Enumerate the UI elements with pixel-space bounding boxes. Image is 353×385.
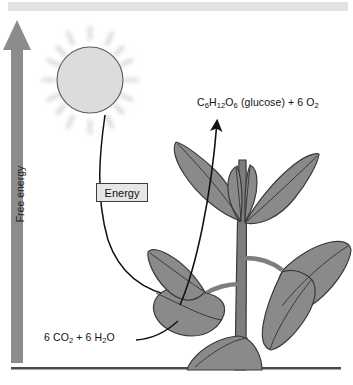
sun-icon — [57, 47, 123, 113]
free-energy-axis-label: Free energy — [14, 154, 26, 234]
reactants-label: 6 CO2 + 6 H2O — [44, 331, 115, 345]
photosynthesis-diagram: C6H12O6 (glucose) + 6 O2 6 CO2 + 6 H2O E… — [0, 0, 353, 385]
leaf-right-lower — [262, 270, 315, 350]
leaf-bottom-center — [187, 336, 262, 370]
energy-label-box: Energy — [96, 183, 148, 202]
glucose-products-label: C6H12O6 (glucose) + 6 O2 — [197, 96, 319, 110]
baseline-ground — [11, 367, 341, 370]
energy-label-text: Energy — [105, 187, 140, 199]
diagram-canvas — [0, 0, 353, 385]
